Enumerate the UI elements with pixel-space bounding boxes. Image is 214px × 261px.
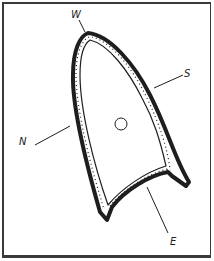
diagram-canvas: W S N E	[0, 0, 214, 261]
pointer-line-south	[154, 75, 183, 88]
label-east: E	[170, 236, 177, 247]
pointer-line-east	[147, 187, 168, 233]
pointer-line-north	[35, 126, 70, 145]
label-west: W	[71, 9, 82, 20]
label-north: N	[19, 136, 27, 147]
label-south: S	[184, 68, 191, 79]
outer-wall	[73, 33, 189, 220]
pointer-line-west	[79, 20, 85, 32]
center-circle	[115, 118, 127, 130]
